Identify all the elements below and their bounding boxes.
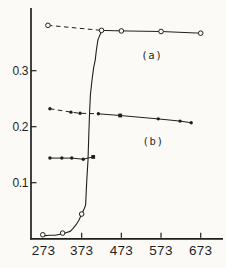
series-a-open-circles-marker-open-circle (119, 29, 124, 34)
x-tick-label: 673 (189, 243, 212, 258)
series-b-filled-dots-marker-dot (69, 110, 72, 113)
sigmoid-open-circles-marker-open-circle (79, 212, 84, 217)
series-c-short-flat-marker-dot (60, 156, 63, 159)
annotation-label-b: (b) (142, 135, 163, 147)
y-tick-label: 0.1 (13, 176, 29, 190)
annotation-label-a: (a) (141, 49, 162, 61)
x-tick-label: 573 (149, 243, 172, 258)
series-b-filled-dots-marker-dot (78, 112, 81, 115)
figure-background (0, 0, 226, 268)
series-a-open-circles-marker-open-circle (99, 28, 104, 33)
series-a-open-circles-marker-open-circle (198, 31, 203, 36)
x-tick-label: 473 (110, 243, 133, 258)
series-b-filled-dots-marker-dot (157, 117, 160, 120)
x-tick-label: 273 (32, 243, 55, 258)
sigmoid-open-circles-marker-open-circle (60, 231, 65, 236)
y-tick-label: 0.2 (13, 120, 29, 134)
scanned-line-chart-figure: 2733734735736730.10.20.3(a)(b) (0, 0, 226, 268)
chart-canvas: 2733734735736730.10.20.3(a)(b) (0, 0, 226, 268)
x-tick-label: 373 (70, 243, 93, 258)
series-b-filled-dots-marker-dot (189, 121, 192, 124)
y-tick-label: 0.3 (13, 64, 29, 78)
series-b-filled-dots-marker-dot (48, 107, 51, 110)
series-c-short-flat-marker-square (91, 155, 95, 159)
series-a-open-circles-marker-open-circle (159, 29, 164, 34)
series-b-filled-dots-marker-dot (178, 119, 181, 122)
series-c-short-flat-marker-dot (48, 156, 51, 159)
series-b-filled-dots-marker-dot (97, 112, 100, 115)
series-a-open-circles-marker-open-circle (46, 23, 51, 28)
series-c-short-flat-marker-dot (70, 156, 73, 159)
series-c-short-flat-marker-dot (82, 157, 85, 160)
sigmoid-open-circles-marker-open-circle (40, 232, 45, 237)
series-b-filled-dots-marker-square (118, 114, 122, 118)
